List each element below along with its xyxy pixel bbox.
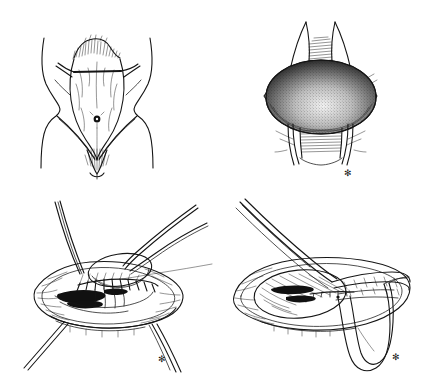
oval-retractor-blade bbox=[86, 249, 154, 291]
retractor-lower-right bbox=[149, 324, 181, 372]
panel-bottom-left: Uterine incision with interrupted suture… bbox=[0, 190, 214, 381]
suture-line bbox=[78, 279, 158, 286]
exposed-cavity bbox=[252, 266, 348, 322]
retractor-lower-left bbox=[24, 322, 68, 370]
umbilicus bbox=[90, 112, 104, 128]
flap-hatching bbox=[344, 277, 399, 296]
panel-bottom-right: Continuing closure with long suture loop… bbox=[214, 190, 428, 381]
closure-suture-drawing: ✻ bbox=[214, 190, 428, 381]
torso-incision-drawing bbox=[0, 0, 214, 190]
panel-top-left: Abdominal surface anatomy with transvers… bbox=[0, 0, 214, 190]
tissue-flap bbox=[332, 272, 410, 300]
retracted-wound-drawing: ✻ bbox=[214, 0, 428, 190]
cavity-hatching bbox=[260, 274, 344, 315]
signature-glyph: ✻ bbox=[344, 168, 352, 178]
exposed-uterus bbox=[266, 60, 376, 134]
suture-placement-drawing: ✻ bbox=[0, 190, 214, 381]
artist-signature-mark: ✻ bbox=[344, 168, 352, 178]
suture-loop bbox=[338, 283, 393, 371]
costal-hatching bbox=[73, 40, 120, 59]
illustration-plate: Abdominal surface anatomy with transvers… bbox=[0, 0, 428, 381]
panel-top-right: Laparotomy wound retracted exposing the … bbox=[214, 0, 428, 190]
incision-marking-line bbox=[58, 63, 138, 72]
artist-signature-mark: ✻ bbox=[158, 354, 166, 364]
artist-signature-mark: ✻ bbox=[392, 352, 400, 362]
suture-knot bbox=[336, 295, 339, 298]
pubic-hatching bbox=[85, 149, 109, 170]
